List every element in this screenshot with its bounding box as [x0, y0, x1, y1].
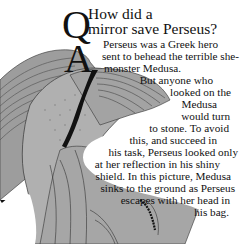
answer-line: his task, Perseus looked only [108, 146, 238, 158]
question-heading: How did a mirror save Perseus? [88, 6, 217, 36]
answer-line: shield. In this picture, Medusa [96, 170, 231, 182]
answer-line: sent to behead the terrible she- [102, 50, 239, 62]
answer-line: sinks to the ground as Perseus [100, 182, 235, 194]
answer-line: at her reflection in his shiny [95, 158, 220, 170]
answer-line: monster Medusa. [104, 62, 181, 74]
question-line: How did a [88, 6, 217, 21]
answer-marker: A [64, 39, 93, 79]
lower-left-mask [0, 193, 36, 244]
answer-line: looked on the [170, 86, 231, 98]
answer-line: Medusa [182, 98, 217, 110]
answer-line: this, and succeed in [129, 134, 217, 146]
answer-line: But anyone who [140, 74, 213, 86]
answer-line: to stone. To avoid [149, 122, 229, 134]
answer-line: Perseus was a Greek hero [103, 38, 218, 50]
answer-line: his bag. [194, 206, 229, 218]
question-line: mirror save Perseus? [88, 21, 217, 36]
answer-line: escapes with her head in [121, 194, 230, 206]
answer-line: would turn [181, 110, 230, 122]
